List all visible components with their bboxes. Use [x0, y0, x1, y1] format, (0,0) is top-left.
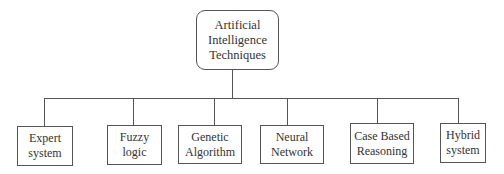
drop-line-case	[377, 98, 378, 123]
drop-line-fuzzy	[133, 98, 134, 125]
node-label-line-2: Reasoning	[357, 144, 408, 159]
root-node-ai-techniques: Artificial Intelligence Techniques	[196, 10, 279, 70]
node-label-line-2: Network	[271, 145, 313, 160]
node-label-line-1: Expert	[29, 131, 61, 146]
node-label-line-1: Genetic	[191, 130, 228, 145]
drop-line-expert	[44, 98, 45, 126]
root-stem-line	[232, 69, 233, 98]
node-label-line-1: Case Based	[354, 129, 410, 144]
node-label-line-2: Algorithm	[185, 145, 235, 160]
node-fuzzy-logic: Fuzzy logic	[107, 125, 162, 165]
root-label-line-2: Intelligence	[208, 33, 267, 48]
node-label-line-1: Neural	[276, 130, 309, 145]
node-hybrid-system: Hybrid system	[440, 123, 486, 163]
node-label-line-1: Fuzzy	[120, 130, 149, 145]
root-label-line-1: Artificial	[215, 18, 261, 33]
node-neural-network: Neural Network	[260, 125, 324, 164]
drop-line-genetic	[214, 98, 215, 125]
node-label-line-2: logic	[123, 145, 147, 160]
node-expert-system: Expert system	[17, 126, 73, 166]
drop-line-hybrid	[458, 98, 459, 123]
drop-line-neural	[287, 98, 288, 125]
node-label-line-2: system	[28, 146, 61, 161]
horizontal-bus-line	[44, 98, 459, 99]
node-label-line-1: Hybrid	[446, 128, 480, 143]
node-case-based-reasoning: Case Based Reasoning	[350, 123, 414, 164]
node-genetic-algorithm: Genetic Algorithm	[178, 125, 242, 164]
root-label-line-3: Techniques	[209, 48, 266, 63]
node-label-line-2: system	[446, 143, 479, 158]
